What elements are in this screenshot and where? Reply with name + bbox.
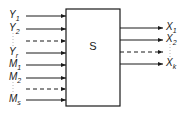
input-label-ms: Ms <box>9 93 21 106</box>
input-signals: Y1Y2YrM1M2Ms <box>9 9 66 106</box>
output-signals: X1X2Xk <box>120 21 177 70</box>
input-label-m1: M1 <box>9 58 21 71</box>
system-label: S <box>89 40 96 52</box>
output-label-x2: X2 <box>165 33 177 46</box>
input-label-y2: Y2 <box>9 22 20 35</box>
block-diagram: Y1Y2YrM1M2Ms S X1X2Xk <box>0 0 187 115</box>
input-label-m2: M2 <box>9 71 21 84</box>
output-label-xk: Xk <box>165 57 177 70</box>
input-label-y1: Y1 <box>9 9 20 22</box>
system-block <box>66 9 120 106</box>
